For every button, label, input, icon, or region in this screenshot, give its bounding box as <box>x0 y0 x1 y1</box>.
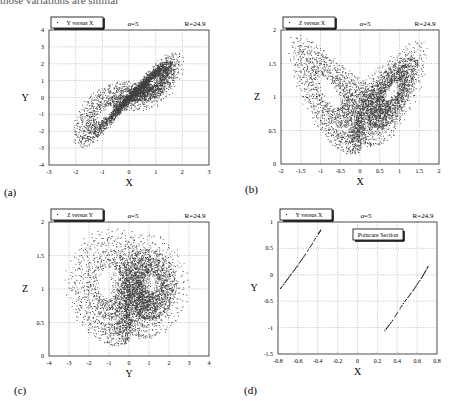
x-tick-label: 0.6 <box>413 358 421 364</box>
alpha-parameter: α=5 <box>359 20 371 28</box>
x-tick-label: -0.5 <box>336 168 346 174</box>
x-tick-label: 0.5 <box>376 168 384 174</box>
y-tick-label: 0 <box>273 161 276 167</box>
y-tick-label: 1.5 <box>269 61 277 67</box>
legend-text: Z versus X <box>299 20 326 26</box>
x-tick-label: -2 <box>87 360 92 366</box>
y-tick-label: 0.5 <box>266 245 274 251</box>
annotation-text: Poincare Section <box>358 232 399 238</box>
x-tick-label: 0 <box>356 358 359 364</box>
x-tick-label: -1 <box>318 168 323 174</box>
y-tick-label: 1 <box>273 94 276 100</box>
y-tick-label: -1 <box>39 111 44 117</box>
x-tick-label: -2 <box>73 169 78 175</box>
x-tick-label: -1.5 <box>296 168 306 174</box>
y-tick-label: 1 <box>270 219 273 225</box>
y-tick-label: 0 <box>270 272 273 278</box>
x-tick-label: -4 <box>47 360 52 366</box>
alpha-parameter: α=5 <box>127 20 139 28</box>
y-axis-label: Y <box>250 282 257 293</box>
x-tick-label: 0 <box>128 360 131 366</box>
tick-labels: -4-3-2-10123400.511.52 <box>37 219 211 366</box>
y-tick-label: 0 <box>41 95 44 101</box>
x-tick-label: -0.6 <box>293 358 303 364</box>
x-axis-label: X <box>356 176 364 187</box>
y-tick-label: 3 <box>41 44 44 50</box>
x-axis-label: X <box>354 366 362 377</box>
x-tick-label: -0.8 <box>273 358 283 364</box>
x-tick-label: 0 <box>359 168 362 174</box>
y-tick-label: 4 <box>41 27 44 33</box>
panel-d: -0.8-0.6-0.4-0.200.20.40.60.8-1.5-1-0.50… <box>244 209 441 397</box>
x-tick-label: 1 <box>154 169 157 175</box>
r-parameter: R=24.9 <box>185 20 206 28</box>
x-tick-label: -2 <box>279 168 284 174</box>
y-tick-label: -3 <box>39 145 44 151</box>
legend-text: Y versus X <box>67 20 94 26</box>
x-axis-label: Y <box>125 368 132 379</box>
y-tick-label: 0.5 <box>269 128 277 134</box>
y-tick-label: 1 <box>41 78 44 84</box>
x-tick-label: 0.2 <box>374 358 382 364</box>
x-tick-label: 0.4 <box>394 358 402 364</box>
tick-labels: -0.8-0.6-0.4-0.200.20.40.60.8-1.5-1-0.50… <box>264 219 441 364</box>
x-tick-label: 2 <box>168 360 171 366</box>
scatter-points <box>280 230 429 332</box>
y-tick-label: -1 <box>268 325 273 331</box>
x-tick-label: 2 <box>181 169 184 175</box>
x-tick-label: 0 <box>128 169 131 175</box>
panel-b: -2-1.5-1-0.500.511.5200.511.52XZZ versus… <box>245 17 441 196</box>
legend: Y versus X <box>51 17 104 29</box>
alpha-parameter: α=5 <box>360 212 372 220</box>
y-tick-label: 1.5 <box>37 253 45 259</box>
y-tick-label: 0.5 <box>37 320 45 326</box>
x-tick-label: -3 <box>47 169 52 175</box>
y-tick-label: 2 <box>41 219 44 225</box>
x-tick-label: 2 <box>438 168 441 174</box>
panel-a: -3-2-10123-4-3-2-101234XYY versus Xα=5R=… <box>4 17 211 199</box>
r-parameter: R=24.9 <box>185 212 206 220</box>
r-parameter: R=24.9 <box>413 212 434 220</box>
x-tick-label: -0.2 <box>333 358 343 364</box>
x-tick-label: -0.4 <box>313 358 323 364</box>
legend-text: Y versus X <box>296 212 323 218</box>
panel-label-a: (a) <box>4 186 17 199</box>
y-tick-label: -4 <box>39 162 44 168</box>
y-axis-label: Y <box>21 92 28 103</box>
y-tick-label: 0 <box>41 353 44 359</box>
x-tick-label: 1 <box>398 168 401 174</box>
figure-canvas: -3-2-10123-4-3-2-101234XYY versus Xα=5R=… <box>0 0 455 410</box>
grid-lines <box>278 222 437 354</box>
panel-label-b: (b) <box>245 183 258 196</box>
legend: Z versus Y <box>51 209 104 221</box>
panel-label-c: (c) <box>14 384 27 397</box>
y-tick-label: -1.5 <box>264 351 274 357</box>
legend: Y versus X <box>280 209 333 221</box>
alpha-parameter: α=5 <box>127 212 139 220</box>
x-tick-label: 3 <box>208 169 211 175</box>
scatter-points <box>65 229 190 347</box>
y-tick-label: 2 <box>41 61 44 67</box>
y-tick-label: 1 <box>41 286 44 292</box>
y-axis-label: Z <box>22 283 28 294</box>
scatter-points <box>289 35 428 154</box>
y-tick-label: 2 <box>273 27 276 33</box>
x-tick-label: -1 <box>100 169 105 175</box>
r-parameter: R=24.9 <box>415 20 436 28</box>
y-tick-label: -0.5 <box>264 298 274 304</box>
y-axis-label: Z <box>254 91 260 102</box>
x-tick-label: 4 <box>208 360 211 366</box>
poincare-section-label: Poincare Section <box>353 229 404 241</box>
panel-c: -4-3-2-10123400.511.52YZZ versus Yα=5R=2… <box>14 209 211 397</box>
x-tick-label: 0.8 <box>433 358 441 364</box>
x-tick-label: 3 <box>188 360 191 366</box>
y-tick-label: -2 <box>39 128 44 134</box>
x-tick-label: -1 <box>107 360 112 366</box>
x-tick-label: 1 <box>148 360 151 366</box>
x-axis-label: X <box>125 177 133 188</box>
x-tick-label: 1.5 <box>416 168 424 174</box>
legend-text: Z versus Y <box>67 212 94 218</box>
panel-label-d: (d) <box>244 384 257 397</box>
x-tick-label: -3 <box>67 360 72 366</box>
legend: Z versus X <box>283 17 336 29</box>
